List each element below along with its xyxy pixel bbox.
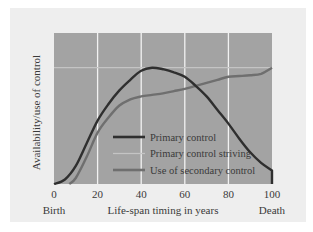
legend-label-primary-control-striving: Primary control striving bbox=[150, 148, 252, 159]
x-tick-label-40: 40 bbox=[136, 188, 148, 200]
legend-label-primary-control: Primary control bbox=[150, 132, 216, 143]
x-tick-label-60: 60 bbox=[179, 188, 191, 200]
legend-label-use-of-secondary-control: Use of secondary control bbox=[150, 165, 255, 176]
x-start-label: Birth bbox=[43, 204, 66, 216]
x-tick-label-0: 0 bbox=[51, 188, 57, 200]
x-tick-label-20: 20 bbox=[92, 188, 104, 200]
plot-area bbox=[54, 33, 272, 184]
x-tick-label-80: 80 bbox=[223, 188, 235, 200]
x-end-label: Death bbox=[259, 204, 286, 216]
x-tick-label-100: 100 bbox=[264, 188, 281, 200]
chart: Primary controlPrimary control strivingU… bbox=[0, 0, 313, 232]
x-axis-title: Life-span timing in years bbox=[108, 204, 219, 216]
x-tick-labels: 020406080100 bbox=[51, 188, 281, 200]
y-axis-title: Availability/use of control bbox=[30, 55, 42, 170]
